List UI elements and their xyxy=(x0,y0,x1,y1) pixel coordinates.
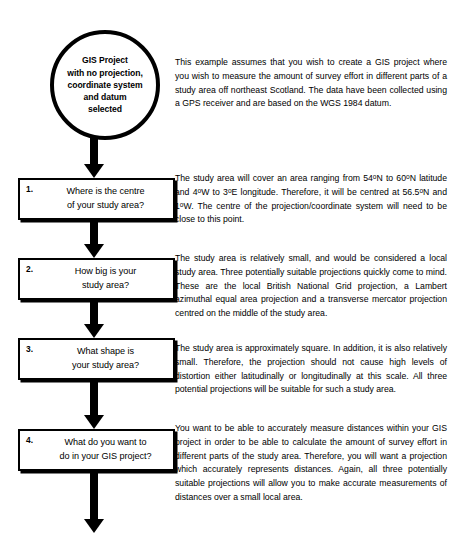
arrow-shaft xyxy=(90,218,98,246)
arrow-head xyxy=(84,519,104,533)
step-3-number: 3. xyxy=(26,345,33,353)
flowchart-step-4: 4. What do you want to do in your GIS pr… xyxy=(18,429,175,471)
flowchart-step-2: 2. How big is your study area? xyxy=(18,258,175,300)
annotation-step-3: The study area is approximately square. … xyxy=(175,342,447,397)
arrow-start-to-step1-icon xyxy=(90,134,98,180)
arrow-head xyxy=(84,164,104,178)
arrow-step2-to-step3-icon xyxy=(90,298,98,340)
flowchart-column: GIS Project with no projection, coordina… xyxy=(0,0,178,551)
arrow-shaft xyxy=(90,469,98,521)
arrow-shaft xyxy=(90,298,98,326)
start-node-label: GIS Project with no projection, coordina… xyxy=(63,54,146,115)
arrow-step4-to-next-icon xyxy=(90,469,98,535)
step-1-number: 1. xyxy=(26,185,33,193)
arrow-step3-to-step4-icon xyxy=(90,378,98,431)
degree-symbol: o xyxy=(406,173,410,180)
arrow-head xyxy=(84,324,104,338)
arrow-head xyxy=(84,244,104,258)
arrow-head xyxy=(84,415,104,429)
step-4-question: What do you want to do in your GIS proje… xyxy=(42,431,169,469)
flowchart-step-1: 1. Where is the centre of your study are… xyxy=(18,178,175,220)
arrow-shaft xyxy=(90,378,98,417)
degree-symbol: o xyxy=(180,201,184,208)
degree-symbol: o xyxy=(419,187,423,194)
annotation-intro: This example assumes that you wish to cr… xyxy=(175,56,447,111)
step-1-question: Where is the centre of your study area? xyxy=(42,180,169,218)
flowchart-start-node: GIS Project with no projection, coordina… xyxy=(50,30,160,140)
step-2-number: 2. xyxy=(26,265,33,273)
annotation-step-4: You want to be able to accurately measur… xyxy=(175,422,447,505)
annotation-column: This example assumes that you wish to cr… xyxy=(175,0,447,551)
step-2-question: How big is your study area? xyxy=(42,260,169,298)
step-4-number: 4. xyxy=(26,436,33,444)
step-3-question: What shape is your study area? xyxy=(42,340,169,378)
degree-symbol: o xyxy=(228,187,232,194)
flowchart-step-3: 3. What shape is your study area? xyxy=(18,338,175,380)
degree-symbol: o xyxy=(198,187,202,194)
annotation-step-2: The study area is relatively small, and … xyxy=(175,252,447,321)
annotation-step-1: The study area will cover an area rangin… xyxy=(175,172,447,227)
degree-symbol: o xyxy=(373,173,377,180)
arrow-step1-to-step2-icon xyxy=(90,218,98,260)
